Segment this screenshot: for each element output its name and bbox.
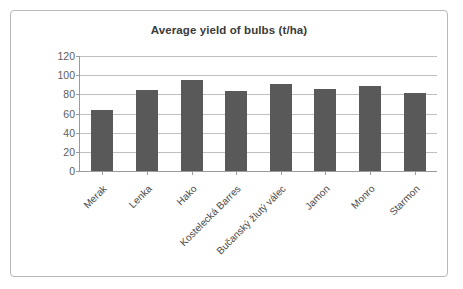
bar[interactable] xyxy=(359,86,381,171)
y-axis-tick-label: 120 xyxy=(57,50,75,62)
plot-area xyxy=(79,56,437,171)
chart-title: Average yield of bulbs (t/ha) xyxy=(11,24,447,36)
x-axis-tick-mark xyxy=(370,171,371,175)
bar[interactable] xyxy=(225,91,247,171)
plot-wrapper: 020406080100120 xyxy=(45,56,436,181)
x-axis-category-label: Hako xyxy=(174,183,198,207)
y-axis-tick-label: 0 xyxy=(69,165,75,177)
bar-slot xyxy=(303,56,348,171)
bar-slot xyxy=(259,56,304,171)
bar[interactable] xyxy=(404,93,426,171)
x-axis-tick-mark xyxy=(415,171,416,175)
chart-frame: Average yield of bulbs (t/ha) 0204060801… xyxy=(10,10,448,277)
x-axis-category-label: Jamon xyxy=(303,183,332,212)
x-axis-tick-mark xyxy=(236,171,237,175)
bar-slot xyxy=(348,56,393,171)
x-axis-category-labels: MerakLenkaHakoKostelecká BarresBučanský … xyxy=(79,183,436,278)
x-axis-tick-mark xyxy=(281,171,282,175)
bar-slot xyxy=(169,56,214,171)
y-axis-tick-label: 40 xyxy=(63,127,75,139)
bar-slot xyxy=(214,56,259,171)
x-axis-tick-mark xyxy=(102,171,103,175)
x-axis-tick-mark xyxy=(192,171,193,175)
y-axis-tick-label: 100 xyxy=(57,69,75,81)
x-axis-tick-mark xyxy=(325,171,326,175)
y-axis-tick-label: 60 xyxy=(63,108,75,120)
bar[interactable] xyxy=(91,110,113,171)
bar-slot xyxy=(392,56,437,171)
y-axis-tick-label: 80 xyxy=(63,88,75,100)
x-axis-tick-mark xyxy=(147,171,148,175)
y-axis-tick-label: 20 xyxy=(63,146,75,158)
y-axis-tick-labels: 020406080100120 xyxy=(45,56,75,171)
bar[interactable] xyxy=(270,84,292,171)
bar[interactable] xyxy=(314,89,336,171)
bar-slot xyxy=(80,56,125,171)
bar-series xyxy=(80,56,437,171)
x-axis-category-label: Starmon xyxy=(387,183,422,218)
x-axis-category-label: Monro xyxy=(349,183,377,211)
y-axis-tick-mark xyxy=(76,171,80,172)
x-axis-category-label: Merak xyxy=(82,183,109,210)
gridline xyxy=(80,171,437,172)
bar[interactable] xyxy=(181,80,203,171)
bar-slot xyxy=(125,56,170,171)
x-axis-category-label: Lenka xyxy=(127,183,154,210)
bar[interactable] xyxy=(136,90,158,171)
